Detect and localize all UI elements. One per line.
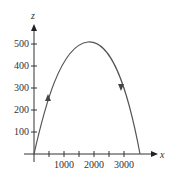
z-tick-label-200: 200 xyxy=(14,104,29,115)
z-axis-label: z xyxy=(30,10,35,21)
z-tick-label-500: 500 xyxy=(14,38,29,49)
z-tick-label-300: 300 xyxy=(14,82,29,93)
trajectory-chart: z x 1000 2000 3000 100 200 300 400 500 xyxy=(0,0,170,176)
x-tick-label-2000: 2000 xyxy=(84,159,104,170)
trajectory-curve xyxy=(34,42,140,154)
z-axis-arrow-icon xyxy=(31,24,37,31)
x-axis-label: x xyxy=(159,149,165,160)
z-tick-label-100: 100 xyxy=(14,126,29,137)
x-tick-label-1000: 1000 xyxy=(54,159,74,170)
x-axis-arrow-icon xyxy=(151,151,158,157)
x-tick-label-3000: 3000 xyxy=(114,159,134,170)
z-tick-label-400: 400 xyxy=(14,60,29,71)
